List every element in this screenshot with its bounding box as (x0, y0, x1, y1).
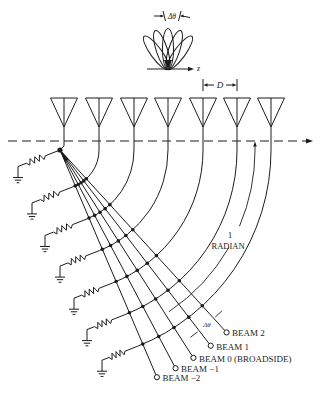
beamforming-network-diagram: Δθ z D 1 RADIAN Δθ BEAM 2 BEAM 1 BEAM 0 … (0, 0, 320, 396)
resistor-termination-icon (45, 219, 87, 247)
radiation-lobe-icon (163, 29, 186, 71)
coupler-junction-dot (131, 228, 135, 232)
labels: Δθ z D 1 RADIAN Δθ BEAM 2 BEAM 1 BEAM 0 … (162, 12, 291, 383)
feed-arc-line (137, 150, 271, 346)
array-axis (8, 138, 313, 143)
coupler-junction-dot (154, 297, 158, 301)
coupler-junction-dot (101, 248, 105, 252)
beam-port-icon (224, 330, 229, 335)
coupler-junction-dot (187, 315, 191, 319)
feed-arc-line (100, 150, 168, 250)
feed-arc-line (87, 150, 134, 219)
beam-spacing-tick (215, 311, 222, 317)
coupler-junction-dot (200, 304, 204, 308)
coupler-junction-dot (87, 216, 91, 220)
coupler-junction-dot (145, 262, 149, 266)
beam-spacing-label: Δθ (202, 321, 211, 329)
coupler-junction-dot (98, 210, 102, 214)
beam-label-0-broadside: BEAM 0 (BROADSIDE) (199, 354, 292, 364)
beam-port-icon (173, 366, 178, 371)
coupler-junction-dot (128, 311, 132, 315)
coupler-junction-dot (108, 203, 112, 207)
z-axis-arrow-icon (188, 67, 194, 71)
resistor-termination-icon (74, 283, 112, 309)
coupler-junction-dot (103, 207, 107, 211)
feed-arc-line (112, 150, 203, 283)
radian-label-line2: RADIAN (211, 241, 244, 251)
coupler-junction-dot (74, 184, 78, 188)
coupler-junction-dot (125, 275, 129, 279)
beam-line (60, 150, 192, 356)
coupler-junction-dot (172, 326, 176, 330)
fan-origin-dot (57, 147, 62, 152)
coupler-junction-dot (157, 335, 161, 339)
antenna-array (51, 79, 285, 150)
beam-label-2: BEAM 2 (232, 328, 265, 338)
coupler-junction-dot (141, 342, 145, 346)
spacing-arrow-icon (233, 83, 237, 86)
coupler-junction-dot (166, 288, 170, 292)
resistor-termination-icon (102, 346, 137, 371)
beam-label-minus-2: BEAM −2 (162, 373, 200, 383)
top-delta-theta-label: Δθ (167, 12, 176, 21)
beam-line (60, 150, 209, 344)
spacing-arrow-icon (204, 83, 208, 86)
resistor-termination-icon (32, 186, 74, 214)
feed-arc-line (125, 150, 237, 315)
beam-label-1: BEAM 1 (216, 342, 249, 352)
resistor-termination-icon (60, 250, 100, 277)
resistor-termination-icon (87, 315, 125, 341)
coupler-junction-dot (124, 234, 128, 238)
beam-port-icon (208, 343, 213, 348)
axis-arrow-icon (306, 138, 313, 143)
coupler-junction-dot (135, 269, 139, 273)
element-spacing-label: D (216, 80, 224, 90)
beam-port-icon (154, 375, 159, 380)
coupler-junction-dot (93, 214, 97, 218)
beam-spacing-tick (190, 332, 197, 337)
coupler-junction-dot (141, 305, 145, 309)
radian-arc-line (240, 150, 256, 226)
coupler-junction-dot (114, 280, 118, 284)
coupler-junction-dot (178, 279, 182, 283)
coupler-junction-dot (109, 244, 113, 248)
coupler-junction-dot (155, 254, 159, 258)
resistor-termination-icon (18, 150, 60, 178)
radian-arrow-icon (253, 142, 257, 147)
coupler-junction-dot (117, 239, 121, 243)
radian-label-line1: 1 (228, 230, 233, 240)
z-axis-label: z (196, 64, 201, 73)
radiation-lobe-icon (150, 29, 173, 71)
feed-arc-line (74, 150, 99, 186)
beam-port-icon (191, 355, 196, 360)
